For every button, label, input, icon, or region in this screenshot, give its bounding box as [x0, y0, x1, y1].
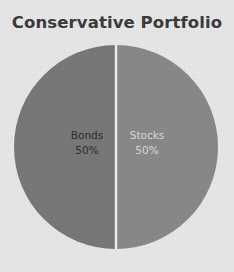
- pie-label-stocks-value: 50%: [118, 143, 176, 158]
- pie-chart-figure: Conservative Portfolio Bonds 50% Stocks …: [0, 0, 234, 272]
- chart-title: Conservative Portfolio: [0, 13, 234, 32]
- pie-svg: [14, 45, 218, 249]
- pie-label-stocks-name: Stocks: [118, 128, 176, 143]
- pie-label-bonds-value: 50%: [58, 143, 116, 158]
- pie-label-bonds-name: Bonds: [58, 128, 116, 143]
- pie-chart-plot-area: Bonds 50% Stocks 50%: [14, 45, 218, 249]
- pie-label-stocks: Stocks 50%: [118, 128, 176, 157]
- pie-label-bonds: Bonds 50%: [58, 128, 116, 157]
